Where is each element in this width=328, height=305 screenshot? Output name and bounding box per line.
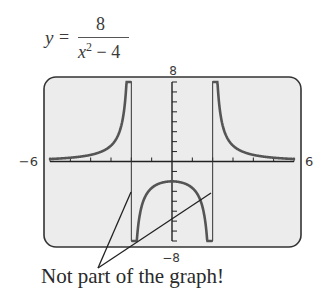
caption-not-part-of-graph: Not part of the graph! [41,264,224,289]
ymax-label: 8 [169,64,177,78]
ymin-label: −8 [162,251,180,265]
xmax-label: 6 [305,154,313,169]
xmin-label: −6 [19,154,38,169]
calculator-graph: 8 −8 −6 6 [0,0,328,305]
